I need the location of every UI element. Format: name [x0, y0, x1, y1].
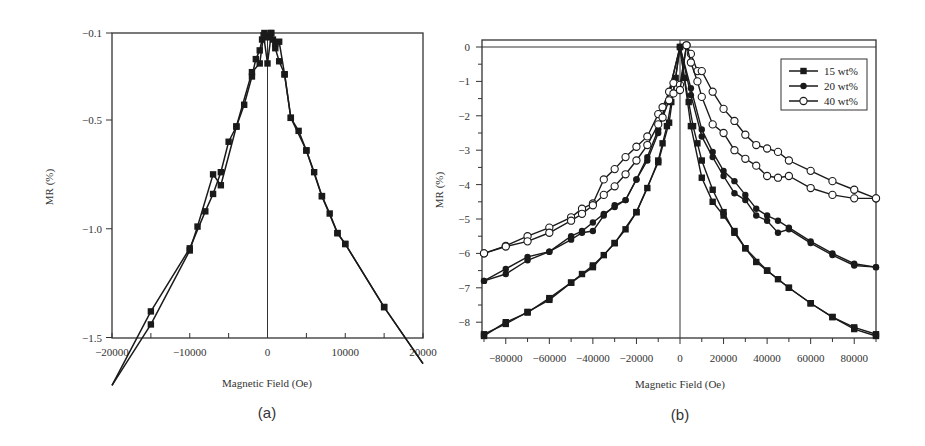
data-point [851, 186, 858, 193]
data-point [807, 300, 813, 306]
x-tick-label: 10000 [332, 346, 360, 358]
data-point [659, 114, 666, 121]
data-point [644, 157, 650, 163]
data-point [590, 219, 596, 225]
data-point [276, 39, 282, 45]
data-point [503, 271, 509, 277]
data-point [731, 228, 737, 234]
data-point [698, 93, 705, 100]
data-point [720, 212, 726, 218]
y-axis-title-b: MR (%) [433, 171, 446, 208]
data-point [268, 30, 274, 36]
data-point [319, 193, 325, 199]
x-tick-label: −40000 [576, 352, 610, 364]
data-point [785, 157, 792, 164]
legend-label-40wt: 40 wt% [824, 95, 858, 107]
data-point [807, 167, 814, 174]
x-tick-label: −80000 [489, 352, 523, 364]
data-point [731, 147, 738, 154]
y-tick-label: −4 [458, 179, 470, 191]
y-tick-label: −5 [458, 213, 470, 225]
data-point [233, 123, 239, 129]
data-point [677, 44, 683, 50]
data-point [709, 88, 716, 95]
y-tick-label: −3 [458, 144, 470, 156]
data-point [381, 304, 387, 310]
data-point [281, 71, 287, 77]
data-point [699, 133, 705, 139]
data-point [622, 171, 629, 178]
data-point [688, 123, 694, 129]
x-tick-label: 60000 [797, 352, 825, 364]
data-point [676, 86, 683, 93]
y-tick-label: −6 [458, 247, 470, 259]
legend-label-15wt: 15 wt% [824, 65, 858, 77]
data-point [786, 226, 792, 232]
data-point [873, 331, 879, 337]
y-tick-label: −0.1 [82, 27, 102, 39]
data-point [720, 129, 727, 136]
data-point [589, 202, 596, 209]
data-point [764, 172, 771, 179]
data-point [829, 178, 836, 185]
panel-label-b: (b) [671, 406, 689, 423]
data-point [194, 223, 200, 229]
legend-b: 15 wt% 20 wt% 40 wt% [781, 59, 867, 110]
data-point [568, 217, 575, 224]
data-point [753, 212, 759, 218]
x-tick-label: −20000 [620, 352, 654, 364]
data-point [764, 267, 770, 273]
y-tick-label: −2 [458, 110, 470, 122]
data-point [148, 321, 154, 327]
data-point [666, 119, 672, 125]
x-tick-label: 0 [265, 346, 271, 358]
data-point [611, 202, 617, 208]
y-axis-ticks-a: −0.1−0.5−1.0−1.5 [82, 27, 112, 344]
data-point [655, 121, 662, 128]
data-point [709, 121, 716, 128]
data-point [633, 176, 639, 182]
data-point [786, 285, 792, 291]
data-point [829, 252, 835, 258]
y-axis-title-a: MR (%) [43, 168, 56, 205]
data-point [590, 264, 596, 270]
data-point [210, 171, 216, 177]
data-point [709, 199, 715, 205]
data-point [655, 159, 661, 165]
data-point [774, 148, 781, 155]
data-point [720, 173, 726, 179]
data-point [578, 210, 585, 217]
data-point [546, 229, 553, 236]
data-point [303, 147, 309, 153]
data-point [524, 309, 530, 315]
data-point [683, 42, 690, 49]
x-tick-label: 80000 [840, 352, 868, 364]
data-point [600, 176, 607, 183]
x-tick-label: −10000 [173, 346, 207, 358]
data-point [579, 230, 585, 236]
data-point [480, 250, 487, 257]
data-point [633, 143, 640, 150]
data-point [720, 105, 727, 112]
x-tick-label: −60000 [532, 352, 566, 364]
data-point [611, 183, 618, 190]
data-point [601, 212, 607, 218]
data-point [753, 162, 760, 169]
data-point [633, 157, 640, 164]
x-tick-label: 0 [677, 352, 683, 364]
data-point [502, 243, 509, 250]
data-point [524, 257, 530, 263]
data-point [503, 319, 509, 325]
panel-label-a: (a) [258, 404, 276, 421]
x-tick-label: −20000 [95, 346, 129, 358]
data-point [709, 187, 715, 193]
data-point [753, 205, 759, 211]
data-point [709, 154, 715, 160]
data-point [774, 174, 781, 181]
data-point [764, 218, 770, 224]
x-axis-title-b: Magnetic Field (Oe) [635, 378, 725, 391]
chart-panel-a: −20000−1000001000020000 −0.1−0.5−1.0−1.5… [43, 27, 437, 421]
data-point [288, 115, 294, 121]
data-point [622, 197, 628, 203]
data-point [568, 236, 574, 242]
